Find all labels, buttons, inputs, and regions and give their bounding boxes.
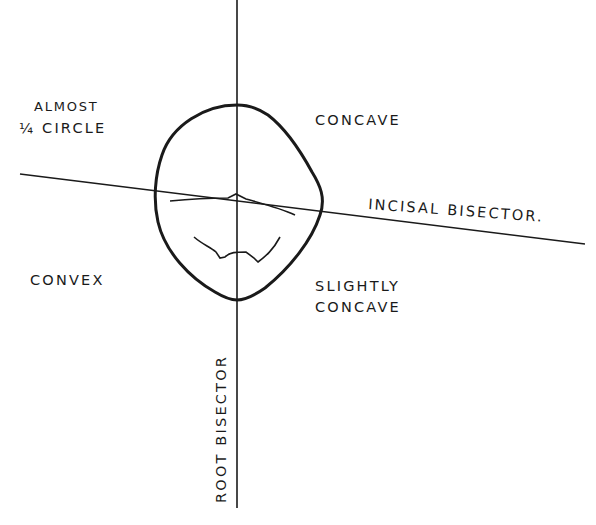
label-root-bisector: ROOT BISECTOR [211,355,231,503]
label-quarter-circle: ¼ CIRCLE [19,118,106,138]
figure-caption-cropped [48,517,348,525]
label-concave-2: CONCAVE [315,297,401,317]
label-convex: CONVEX [30,270,105,290]
incisal-ridge-line [170,194,295,215]
label-concave: CONCAVE [315,110,401,130]
label-slightly: SLIGHTLY [315,276,400,296]
label-almost: ALMOST [34,98,99,116]
tooth-diagram [0,0,596,525]
tooth-outline [155,105,322,300]
diagram-canvas: ALMOST ¼ CIRCLE CONCAVE CONVEX SLIGHTLY … [0,0,596,525]
